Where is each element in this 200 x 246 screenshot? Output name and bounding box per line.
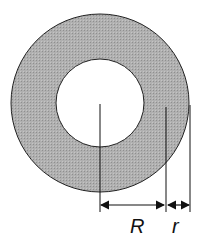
- big-radius-label: R: [130, 215, 144, 237]
- torus-cross-section-diagram: R r: [0, 0, 200, 246]
- small-radius-label: r: [172, 215, 180, 237]
